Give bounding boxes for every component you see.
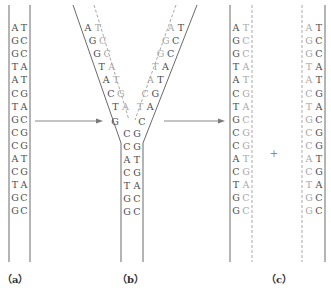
fork-right-new-base: A — [146, 74, 154, 85]
fork-left-old-base: A — [84, 22, 92, 33]
base-left: G — [11, 48, 19, 59]
daughter-2-new-base: T — [306, 61, 313, 72]
daughter-1-new-base: C — [242, 114, 249, 125]
stem-base-left: T — [124, 180, 131, 191]
base-left: T — [12, 101, 19, 112]
fork-right-new-base: C — [142, 88, 149, 99]
stem-base-right: T — [134, 154, 141, 165]
fork-left-old-base: G — [89, 35, 97, 46]
stem-base-right: G — [133, 141, 141, 152]
base-right: G — [20, 140, 28, 151]
daughter-2-new-base: G — [305, 48, 313, 59]
daughter-1-old-base: G — [232, 35, 240, 46]
daughter-2-new-base: G — [305, 35, 313, 46]
daughter-1-old-base: T — [233, 61, 240, 72]
daughter-2-old-base: G — [315, 140, 323, 151]
daughter-2-old-base: T — [316, 74, 323, 85]
daughter-1-old-base: C — [232, 127, 239, 138]
daughter-1-new-base: A — [242, 61, 250, 72]
daughter-1-old-base: T — [233, 179, 240, 190]
daughter-1-new-base: C — [242, 192, 249, 203]
daughter-1-new-base: C — [242, 35, 249, 46]
daughter-1-new-base: C — [242, 205, 249, 216]
arrow-a-to-b — [35, 119, 103, 124]
fork-right-old-base: T — [157, 74, 164, 85]
daughter-2-new-base: G — [305, 205, 313, 216]
daughter-2-new-base: T — [306, 101, 313, 112]
base-left: A — [11, 153, 19, 164]
base-right: C — [20, 192, 27, 203]
panel-a-base-pairs: ATGCGCTAATCGTAGCCGCGATCGTAGCGC — [11, 22, 28, 216]
fork-left-old-base: T — [112, 101, 119, 112]
base-right: A — [20, 101, 28, 112]
fork-right-old-base: A — [161, 61, 169, 72]
stem-base-right: G — [133, 167, 141, 178]
base-left: C — [11, 88, 18, 99]
base-left: G — [11, 114, 19, 125]
fork-right-new-base: A — [166, 22, 174, 33]
base-left: C — [11, 127, 18, 138]
daughter-2-new-base: C — [305, 88, 312, 99]
daughter-2-old-base: C — [315, 192, 322, 203]
daughter-2-old-base: C — [315, 48, 322, 59]
panel-c-daughter-duplexes: + ATGCGCTAATCGTAGCCGCGATCGTAGCGCATGCGCTA… — [230, 5, 325, 262]
daughter-2-old-base: C — [315, 114, 322, 125]
daughter-1-old-base: A — [232, 74, 240, 85]
daughter-2-new-base: A — [305, 153, 313, 164]
fork-right-old-base: A — [146, 101, 154, 112]
daughter-1-new-base: G — [242, 88, 250, 99]
daughter-1-new-base: T — [243, 74, 250, 85]
base-right: T — [21, 74, 28, 85]
fork-point-base-left: G — [111, 116, 119, 127]
daughter-2-new-base: G — [305, 192, 313, 203]
daughter-2-old-base: T — [316, 22, 323, 33]
arrow-head-icon — [218, 119, 225, 124]
fork-left-new-base: C — [99, 35, 106, 46]
fork-left-new-base: A — [107, 61, 115, 72]
fork-left-new-base: C — [104, 48, 111, 59]
daughter-2-new-base: A — [305, 74, 313, 85]
panel-label-a: （a） — [2, 273, 28, 285]
fork-right-new-base: G — [162, 35, 170, 46]
daughter-2-new-base: C — [305, 127, 312, 138]
base-left: T — [12, 61, 19, 72]
base-right: A — [20, 61, 28, 72]
fork-left-old-base: G — [93, 48, 101, 59]
base-right: C — [20, 205, 27, 216]
daughter-2-old-base: C — [315, 35, 322, 46]
base-left: A — [11, 22, 19, 33]
daughter-2-new-base: G — [305, 114, 313, 125]
daughter-2-old-base: G — [315, 88, 323, 99]
fork-left-new-base: T — [95, 22, 102, 33]
daughter-1-new-base: G — [242, 166, 250, 177]
base-left: A — [11, 74, 19, 85]
fork-left-old-base: C — [107, 88, 114, 99]
daughter-1-new-base: A — [242, 101, 250, 112]
daughter-1-new-base: T — [243, 22, 250, 33]
stem-base-right: C — [133, 193, 140, 204]
fork-right-old-strand — [143, 5, 197, 262]
daughter-2-old-base: A — [315, 101, 323, 112]
base-right: G — [20, 127, 28, 138]
daughter-1-new-base: G — [242, 140, 250, 151]
daughter-2-old-base: A — [315, 61, 323, 72]
fork-right-new-base: G — [157, 48, 165, 59]
stem-base-left: C — [123, 141, 130, 152]
fork-point-base-right: C — [138, 116, 145, 127]
stem-base-right: C — [133, 206, 140, 217]
fork-left-new-base: G — [117, 88, 125, 99]
fork-right-old-base: C — [167, 48, 174, 59]
panel-label-b: （b） — [117, 273, 144, 285]
base-right: T — [21, 22, 28, 33]
panel-c-base-pairs: ATGCGCTAATCGTAGCCGCGATCGTAGCGCATGCGCTAAT… — [232, 22, 323, 216]
stem-base-right: A — [133, 180, 141, 191]
daughter-2-new-base: C — [305, 166, 312, 177]
daughter-2-new-base: A — [305, 22, 313, 33]
fork-left-old-base: A — [102, 74, 110, 85]
base-right: C — [20, 114, 27, 125]
daughter-1-old-base: T — [233, 101, 240, 112]
fork-left-new-base: T — [113, 74, 120, 85]
fork-right-old-base: G — [151, 88, 159, 99]
base-right: C — [20, 35, 27, 46]
base-left: G — [11, 192, 19, 203]
